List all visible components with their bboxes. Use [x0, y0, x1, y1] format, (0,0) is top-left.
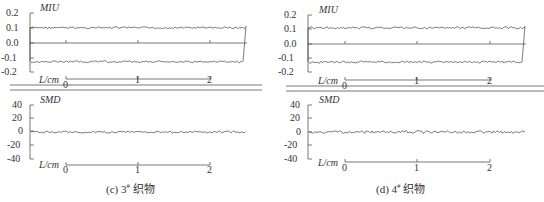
miu-ytick: 0.0 [6, 38, 19, 48]
miu-lower-trace [31, 61, 243, 63]
miu-xtick: 0 [63, 80, 68, 90]
panel-c-caption: (c) 3# 织物 [106, 180, 155, 196]
smd-ytick: 20 [290, 113, 300, 123]
smd-ylabel: SMD [319, 95, 340, 105]
miu-ytick: -0.2 [1, 67, 17, 77]
miu-return-line [243, 26, 246, 62]
miu-xtick: 1 [135, 75, 140, 85]
miu-lower-trace [309, 61, 522, 63]
smd-xtick: 0 [342, 163, 347, 173]
miu-xtick: 0 [342, 81, 347, 91]
panel-d-plot-svg [272, 0, 544, 202]
miu-xtick: 1 [414, 76, 419, 86]
smd-ytick: -20 [7, 140, 20, 150]
smd-xtick: 0 [63, 165, 68, 175]
miu-ylabel: MIU [319, 5, 338, 15]
smd-ytick: 0 [296, 127, 301, 137]
smd-ylabel: SMD [40, 95, 61, 105]
smd-ytick: -40 [284, 154, 297, 164]
smd-xlabel: L/cm [39, 160, 59, 170]
miu-ytick: 0.1 [6, 23, 19, 33]
smd-trace [309, 131, 525, 134]
miu-ytick: 0.1 [284, 24, 297, 34]
miu-ytick: -0.2 [278, 67, 294, 77]
smd-xtick: 1 [414, 163, 419, 173]
smd-ytick: 40 [290, 100, 300, 110]
miu-ytick: 0.2 [6, 8, 19, 18]
smd-ytick: 40 [12, 100, 22, 110]
smd-ytick: -40 [7, 154, 20, 164]
smd-ytick: -20 [284, 140, 297, 150]
miu-ytick: 0.0 [284, 39, 297, 49]
smd-ytick: 20 [12, 113, 22, 123]
miu-ytick: 0.2 [284, 10, 297, 20]
miu-xtick: 2 [487, 76, 492, 86]
smd-ytick: 0 [18, 126, 23, 136]
smd-xtick: 2 [207, 165, 212, 175]
miu-ytick: -0.1 [1, 53, 17, 63]
miu-upper-trace [30, 27, 246, 62]
miu-xlabel: L/cm [39, 75, 59, 85]
smd-xtick: 1 [135, 165, 140, 175]
panel-c-fabric-3: MIU 0.2 0.1 0.0 -0.1 -0.2 L/cm 0 1 2 SMD… [0, 0, 272, 202]
panel-d-caption: (d) 4# 织物 [376, 180, 425, 196]
miu-xlabel: L/cm [318, 76, 338, 86]
smd-xlabel: L/cm [318, 158, 338, 168]
smd-xtick: 2 [487, 163, 492, 173]
panel-d-fabric-4: MIU 0.2 0.1 0.0 -0.1 -0.2 L/cm 0 1 2 SMD… [272, 0, 544, 202]
miu-ylabel: MIU [40, 3, 59, 13]
smd-trace [31, 131, 246, 133]
miu-xtick: 2 [207, 75, 212, 85]
miu-ytick: -0.1 [278, 53, 294, 63]
